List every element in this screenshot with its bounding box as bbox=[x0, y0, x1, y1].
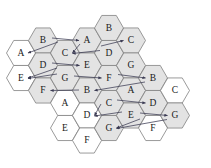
hex-grid-canvas: AEBDFCGAEAEBDFBDFCGCGAEBDFCG bbox=[0, 0, 211, 168]
hex-cell-layer bbox=[7, 15, 190, 153]
hexagonal-grid-diagram: AEBDFCGAEAEBDFBDFCGCGAEBDFCG bbox=[0, 0, 211, 168]
connection-arrow bbox=[51, 90, 80, 91]
